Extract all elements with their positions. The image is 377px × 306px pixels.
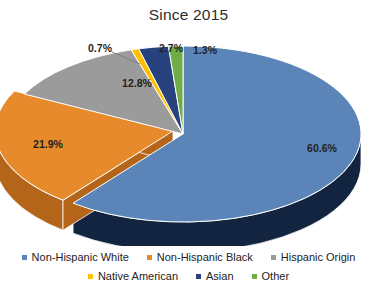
legend-row-2: Native American Asian Other [0,267,377,286]
pie-data-label-other: 1.3% [193,44,218,56]
legend-row-1: Non-Hispanic White Non-Hispanic Black Hi… [0,248,377,267]
legend-swatch-icon [22,255,27,260]
pie-svg: 60.6%21.9%12.8%0.7%2.7%1.3% [0,30,377,246]
chart-legend: Non-Hispanic White Non-Hispanic Black Hi… [0,248,377,294]
legend-item-asian[interactable]: Asian [196,270,234,283]
legend-swatch-icon [88,274,93,279]
legend-label: Non-Hispanic White [32,251,129,264]
legend-swatch-icon [271,255,276,260]
pie-top-faces [0,46,361,222]
legend-swatch-icon [147,255,152,260]
pie-data-label-asian: 2.7% [159,42,184,54]
legend-item-non-hispanic-white[interactable]: Non-Hispanic White [22,251,129,264]
legend-label: Non-Hispanic Black [157,251,253,264]
pie-data-label-non-hispanic-black: 21.9% [33,138,63,150]
legend-item-native-american[interactable]: Native American [88,270,178,283]
pie-plot-area: 60.6%21.9%12.8%0.7%2.7%1.3% [0,30,377,246]
legend-item-hispanic-origin[interactable]: Hispanic Origin [271,251,356,264]
pie-chart-figure: Since 2015 60.6%21.9%12.8%0.7%2.7%1.3% N… [0,0,377,306]
legend-swatch-icon [196,274,201,279]
legend-swatch-icon [252,274,257,279]
legend-item-non-hispanic-black[interactable]: Non-Hispanic Black [147,251,253,264]
legend-item-other[interactable]: Other [252,270,290,283]
legend-label: Other [262,270,290,283]
pie-data-label-native-american: 0.7% [88,42,113,54]
pie-data-label-non-hispanic-white: 60.6% [307,142,337,154]
legend-label: Hispanic Origin [281,251,356,264]
legend-label: Native American [98,270,178,283]
chart-title: Since 2015 [0,6,377,24]
legend-label: Asian [206,270,234,283]
pie-data-label-hispanic-origin: 12.8% [122,77,152,89]
